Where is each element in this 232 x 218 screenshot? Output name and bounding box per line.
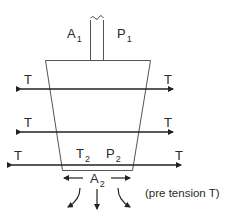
label-tension-left-1: T: [24, 73, 32, 86]
outflow-left-arrow-icon: [68, 188, 80, 207]
outflow-right-arrow-icon: [118, 188, 130, 207]
label-t2: T2: [76, 147, 90, 160]
diagram-graphic: [0, 0, 232, 218]
label-p1: P1: [117, 27, 132, 40]
label-a1: A1: [67, 27, 82, 40]
pre-tension-note: (pre tension T): [145, 188, 220, 200]
label-tension-right-1: T: [164, 73, 172, 86]
label-a2: A2: [90, 172, 105, 185]
label-tension-left-2: T: [24, 116, 32, 129]
label-p2: P2: [106, 147, 121, 160]
piston-rod: [91, 16, 104, 60]
break-wave-icon: [91, 16, 104, 20]
diagram-canvas: A1 P1 T T T T T T T2 P2 A2 (pre tension …: [0, 0, 232, 218]
label-tension-left-3: T: [14, 149, 22, 162]
vessel-outline: [46, 61, 151, 171]
label-tension-right-2: T: [164, 116, 172, 129]
label-tension-right-3: T: [175, 149, 183, 162]
